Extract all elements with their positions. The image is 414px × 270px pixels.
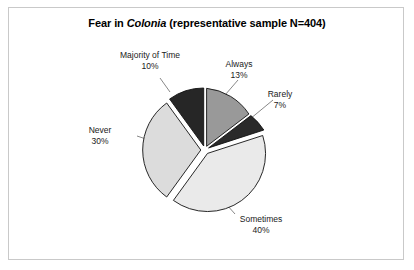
label-rarely-name: Rarely	[258, 89, 302, 100]
leader-line-majority	[160, 78, 170, 92]
label-always: Always 13%	[215, 59, 263, 80]
label-always-name: Always	[215, 59, 263, 70]
label-majority-of-time-percent: 10%	[104, 61, 196, 72]
pie-chart	[0, 0, 414, 270]
label-rarely: Rarely 7%	[258, 89, 302, 110]
chart-figure: Fear in Colonia (representative sample N…	[0, 0, 414, 270]
label-majority-of-time-name: Majority of Time	[104, 50, 196, 61]
label-always-percent: 13%	[215, 70, 263, 81]
label-never-name: Never	[78, 125, 122, 136]
label-rarely-percent: 7%	[258, 100, 302, 111]
label-majority-of-time: Majority of Time 10%	[104, 50, 196, 71]
label-never: Never 30%	[78, 125, 122, 146]
label-sometimes-name: Sometimes	[229, 214, 293, 225]
label-never-percent: 30%	[78, 136, 122, 147]
label-sometimes-percent: 40%	[229, 225, 293, 236]
label-sometimes: Sometimes 40%	[229, 214, 293, 235]
